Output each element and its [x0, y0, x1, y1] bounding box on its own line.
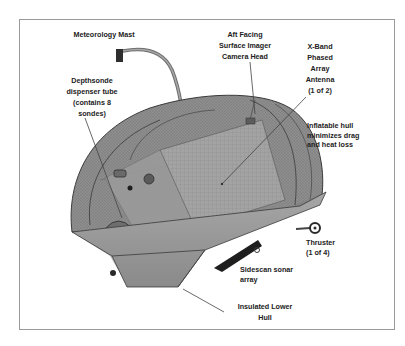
label-lower-hull: Insulated Lower Hull — [238, 301, 293, 323]
leader-lower-hull — [183, 289, 224, 312]
aft-camera-head — [246, 118, 255, 124]
label-xband-antenna: X-Band Phased Array Antenna (1 of 2) — [306, 41, 335, 96]
label-inflatable-hull: Inflatable hull minimizes drag and heat … — [307, 121, 359, 150]
label-meteorology-mast: Meteorology Mast — [73, 29, 134, 40]
label-depthsonde: Depthsonde dispenser tube (contains 8 so… — [66, 75, 117, 119]
label-aft-camera: Aft Facing Surface Imager Camera Head — [219, 29, 271, 62]
label-sidescan-sonar: Sidescan sonar array — [240, 265, 293, 284]
label-thruster: Thruster (1 of 4) — [306, 238, 335, 257]
meteorology-mast — [116, 49, 184, 109]
vehicle-illustration — [0, 0, 405, 346]
